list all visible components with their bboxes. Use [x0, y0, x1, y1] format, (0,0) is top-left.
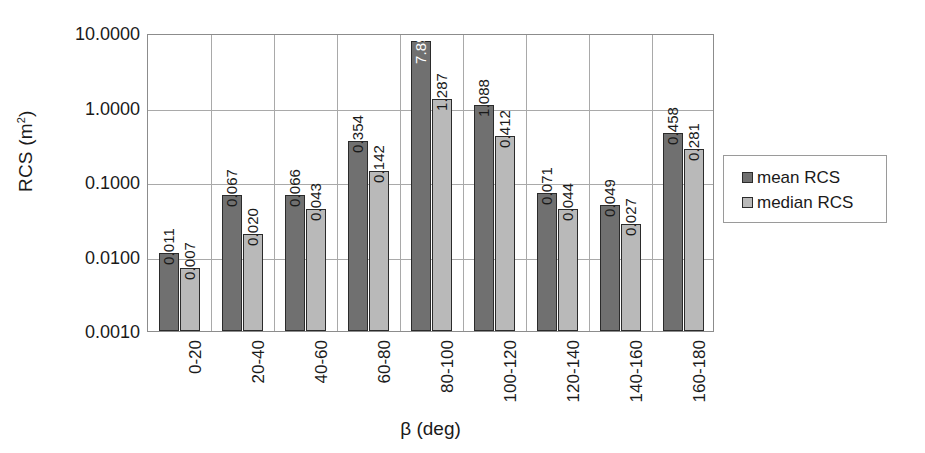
bar-value-label: 0.071 — [539, 167, 554, 205]
rcs-bar-chart: RCS (m2) 10.00001.00000.10000.01000.0010… — [0, 0, 925, 453]
category-divider — [526, 35, 527, 331]
x-tick-label: 120-140 — [565, 340, 582, 402]
legend-item-mean[interactable]: mean RCS — [742, 165, 886, 190]
bar-value-label: 0.011 — [161, 228, 176, 265]
y-tick-label: 0.1000 — [48, 174, 140, 192]
x-tick-label: 160-180 — [691, 340, 708, 402]
bar-value-label: 0.458 — [665, 107, 680, 145]
y-axis-ticks: 10.00001.00000.10000.01000.0010 — [48, 0, 140, 453]
bar-value-label: 0.027 — [623, 198, 638, 236]
x-tick-label: 60-80 — [376, 340, 393, 383]
category-divider — [400, 35, 401, 331]
y-tick-label: 0.0010 — [48, 323, 140, 341]
bar-median-160-180 — [684, 149, 704, 331]
bar-mean-0-20 — [159, 253, 179, 331]
bar-median-40-60 — [306, 209, 326, 331]
bar-mean-20-40 — [222, 195, 242, 331]
bar-value-label: 0.066 — [287, 169, 302, 207]
category-divider — [337, 35, 338, 331]
y-tick-label: 10.0000 — [48, 25, 140, 43]
legend-label-median: median RCS — [757, 194, 853, 211]
bar-value-label: 0.020 — [245, 208, 260, 246]
x-tick-label: 140-160 — [628, 340, 645, 402]
y-tick-label: 0.0100 — [48, 249, 140, 267]
bar-value-label: 0.007 — [182, 242, 197, 280]
x-tick-label: 80-100 — [439, 340, 456, 393]
category-divider — [274, 35, 275, 331]
bar-value-label: 0.043 — [308, 183, 323, 221]
bar-value-label: 1.287 — [434, 73, 449, 111]
bar-value-label: 0.354 — [350, 115, 365, 153]
bar-mean-120-140 — [537, 193, 557, 331]
bar-value-label: 0.142 — [371, 145, 386, 183]
bar-median-120-140 — [558, 209, 578, 331]
bar-mean-80-100 — [411, 41, 431, 331]
x-axis-title: β (deg) — [147, 418, 714, 440]
bar-median-60-80 — [369, 171, 389, 331]
x-tick-label: 100-120 — [502, 340, 519, 402]
chart-legend: mean RCS median RCS — [723, 155, 887, 223]
y-axis-title-superscript: 2 — [15, 117, 27, 123]
x-tick-label: 20-40 — [250, 340, 267, 383]
plot-area: 0.0110.0070.0670.0200.0660.0430.3540.142… — [147, 34, 714, 332]
bar-mean-160-180 — [663, 133, 683, 331]
bar-mean-40-60 — [285, 195, 305, 331]
x-tick-label: 40-60 — [313, 340, 330, 383]
bar-mean-60-80 — [348, 141, 368, 331]
bar-median-80-100 — [432, 99, 452, 331]
category-divider — [652, 35, 653, 331]
bar-median-20-40 — [243, 234, 263, 331]
bar-value-label: 0.412 — [497, 110, 512, 148]
legend-swatch-median-icon — [742, 197, 753, 208]
y-axis-title-tail: ) — [15, 110, 36, 117]
bar-mean-100-120 — [474, 105, 494, 331]
bar-value-label: 0.281 — [686, 123, 701, 161]
x-tick-label: 0-20 — [187, 340, 204, 374]
bar-value-label: 7.895 — [413, 26, 428, 64]
bar-median-140-160 — [621, 224, 641, 331]
y-axis-title: RCS (m2) — [15, 81, 37, 221]
bar-value-label: 0.044 — [560, 183, 575, 221]
category-divider — [211, 35, 212, 331]
bar-value-label: 1.088 — [476, 79, 491, 117]
category-divider — [463, 35, 464, 331]
bar-mean-140-160 — [600, 205, 620, 331]
legend-swatch-mean-icon — [742, 172, 753, 183]
bar-median-100-120 — [495, 136, 515, 331]
legend-item-median[interactable]: median RCS — [742, 190, 886, 215]
legend-label-mean: mean RCS — [757, 169, 840, 186]
y-axis-title-main: RCS (m — [15, 123, 36, 192]
category-divider — [589, 35, 590, 331]
bar-value-label: 0.067 — [224, 169, 239, 207]
bar-value-label: 0.049 — [602, 179, 617, 217]
y-tick-label: 1.0000 — [48, 100, 140, 118]
